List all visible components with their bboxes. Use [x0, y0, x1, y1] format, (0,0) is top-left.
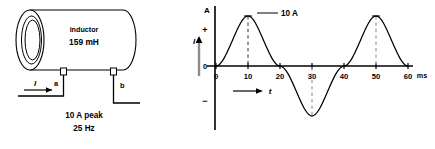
x-tick-label-60: 60: [404, 72, 412, 81]
terminal-a-label: a: [54, 79, 59, 88]
y-tick-positive-label: +: [202, 25, 207, 35]
x-tick-label-40: 40: [340, 72, 348, 81]
source-frequency-label: 25 Hz: [73, 124, 94, 133]
y-axis-unit-label: A: [204, 6, 210, 15]
current-axis-indicator: [196, 36, 203, 76]
x-tick-label-0: 0: [214, 72, 218, 81]
current-direction-arrow: [24, 87, 52, 93]
x-tick-label-50: 50: [372, 72, 380, 81]
time-direction-arrow: [233, 88, 263, 94]
waveform-chart-svg: A ms + 0 − I 0 10: [185, 0, 435, 149]
source-peak-label: 10 A peak: [65, 111, 103, 120]
x-tick-label-20: 20: [276, 72, 284, 81]
annotation-peak-value-label: 10 A: [281, 9, 298, 18]
inductor-value-label: 159 mH: [69, 37, 99, 47]
waveform-chart-panel: A ms + 0 − I 0 10: [185, 0, 435, 149]
x-axis-time-label: t: [269, 87, 272, 96]
terminal-post-b: [111, 68, 117, 75]
y-tick-negative-label: −: [202, 96, 207, 106]
inductor-circuit-panel: inductor 159 mH a b I: [0, 0, 185, 149]
current-symbol-label: I: [34, 79, 37, 88]
x-axis-unit-label: ms: [417, 71, 427, 80]
x-tick-label-10: 10: [244, 72, 252, 81]
y-tick-zero-label: 0: [203, 62, 207, 71]
y-axis-current-label: I: [193, 37, 196, 46]
terminal-b-label: b: [120, 81, 125, 90]
inductor-name-label: inductor: [70, 25, 99, 34]
terminal-post-a: [61, 68, 67, 75]
inductor-circuit-svg: inductor 159 mH a b I: [0, 0, 185, 149]
cylinder-end-inner: [25, 20, 40, 60]
figure-root: inductor 159 mH a b I: [0, 0, 435, 149]
